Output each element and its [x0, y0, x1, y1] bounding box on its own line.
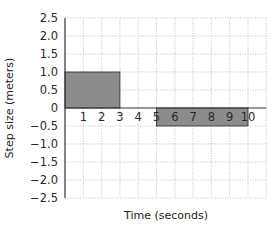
x-tick-label: 6: [171, 110, 178, 124]
y-tick-label: −1.5: [30, 155, 58, 169]
y-tick-label: −0.5: [30, 119, 58, 133]
axes: [65, 18, 266, 198]
y-tick-label: −2.5: [30, 191, 58, 205]
y-tick-label: 0.5: [40, 83, 58, 97]
x-tick-label: 2: [98, 110, 105, 124]
x-tick-label: 1: [80, 110, 87, 124]
y-tick-labels: 2.52.01.51.00.50−0.5−1.0−1.5−2.0−2.5: [30, 11, 58, 205]
step-size-chart: 2.52.01.51.00.50−0.5−1.0−1.5−2.0−2.5 123…: [0, 0, 280, 232]
x-tick-label: 9: [226, 110, 233, 124]
y-axis-label: Step size (meters): [3, 58, 16, 159]
x-tick-label: 7: [189, 110, 196, 124]
x-tick-label: 5: [153, 110, 160, 124]
y-tick-label: 1.5: [40, 47, 58, 61]
x-tick-label: 4: [135, 110, 142, 124]
x-tick-label: 8: [208, 110, 215, 124]
x-tick-label: 10: [241, 110, 256, 124]
y-tick-label: 1.0: [40, 65, 58, 79]
x-tick-label: 3: [116, 110, 123, 124]
bar: [65, 72, 120, 108]
y-tick-label: 2.0: [40, 29, 58, 43]
y-tick-label: −1.0: [30, 137, 58, 151]
y-tick-label: 0: [51, 101, 58, 115]
x-axis-label: Time (seconds): [123, 209, 208, 222]
y-tick-label: 2.5: [40, 11, 58, 25]
y-tick-label: −2.0: [30, 173, 58, 187]
